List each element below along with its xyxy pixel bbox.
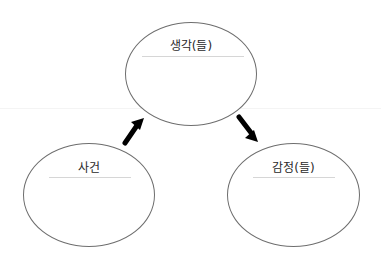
- node-thoughts-label: 생각(들): [126, 36, 256, 53]
- node-emotions-underline: [253, 177, 335, 178]
- node-thoughts: 생각(들): [125, 22, 257, 126]
- node-thoughts-underline: [142, 56, 244, 57]
- arrow-event-to-thoughts-icon: [125, 118, 144, 143]
- diagram-canvas: 생각(들) 사건 감정(들): [0, 0, 381, 266]
- node-emotions-label: 감정(들): [228, 158, 359, 175]
- node-event-label: 사건: [24, 158, 154, 175]
- arrow-thoughts-to-emotions-icon: [239, 117, 258, 142]
- node-emotions: 감정(들): [227, 143, 360, 247]
- node-event-underline: [49, 177, 131, 178]
- node-event: 사건: [23, 143, 155, 247]
